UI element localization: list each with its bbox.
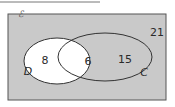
outside-count: 21 xyxy=(150,26,164,39)
set-c-label: C xyxy=(140,66,148,79)
intersection-count: 6 xyxy=(85,55,92,68)
set-d-label: D xyxy=(24,65,32,78)
venn-diagram: ℰ 8 6 15 21 D C xyxy=(0,0,175,107)
set-d-only-count: 8 xyxy=(42,54,49,67)
set-c-only-count: 15 xyxy=(118,53,132,66)
